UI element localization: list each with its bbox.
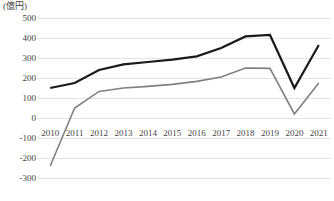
x-axis-tick-label: 2017 <box>212 128 230 139</box>
x-axis-tick-label: 2013 <box>114 128 132 139</box>
y-axis-unit-label: (億円) <box>3 1 27 12</box>
y-axis-tick-labels: 5004003002001000-100-200-300 <box>0 18 36 178</box>
x-axis-tick-label: 2012 <box>90 128 108 139</box>
gridline <box>38 178 331 179</box>
x-axis-tick-label: 2014 <box>139 128 157 139</box>
x-axis-tick-label: 2019 <box>261 128 279 139</box>
y-axis-tick-label: 400 <box>2 34 36 43</box>
y-axis-tick-label: -200 <box>2 154 36 163</box>
x-axis-tick-label: 2021 <box>310 128 328 139</box>
x-axis-tick-label: 2020 <box>285 128 303 139</box>
x-axis-tick-label: 2015 <box>163 128 181 139</box>
x-axis-tick-labels: 2010201120122013201420152016201720182019… <box>38 128 331 140</box>
y-axis-tick-label: 300 <box>2 54 36 63</box>
y-axis-tick-label: 500 <box>2 14 36 23</box>
series-line-black-series <box>50 35 319 88</box>
plot-area <box>38 18 331 178</box>
line-chart: (億円) 5004003002001000-100-200-300 201020… <box>0 0 334 201</box>
y-axis-tick-label: -300 <box>2 174 36 183</box>
x-axis-tick-label: 2018 <box>237 128 255 139</box>
x-axis-tick-label: 2016 <box>188 128 206 139</box>
y-axis-tick-label: 100 <box>2 94 36 103</box>
y-axis-tick-label: 0 <box>2 114 36 123</box>
series-line-gray-series <box>50 68 319 166</box>
series-lines <box>38 18 331 178</box>
y-axis-tick-label: -100 <box>2 134 36 143</box>
x-axis-tick-label: 2010 <box>41 128 59 139</box>
x-axis-tick-label: 2011 <box>66 128 84 139</box>
y-axis-tick-label: 200 <box>2 74 36 83</box>
